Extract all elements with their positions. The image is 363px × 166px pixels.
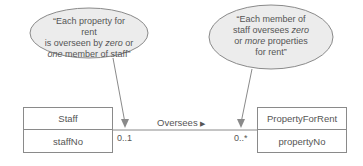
multiplicity-property: 0..* [234,133,248,143]
class-propertyforrent-name: PropertyForRent [258,108,346,130]
class-staff: Staff staffNo [23,107,113,153]
note-left-arrowhead [121,119,129,128]
direction-arrow-icon: ▶ [200,120,205,127]
note-right-text: “Each member of staff oversees zero or m… [226,14,316,58]
note-left-pointer [113,58,125,123]
class-staff-name: Staff [24,108,112,130]
class-propertyforrent-attribute: propertyNo [258,130,346,152]
note-left-text: “Each property for rent is overseen by z… [44,16,134,60]
association-label: Oversees ▶ [157,117,205,128]
note-right-arrowhead [237,119,245,128]
class-staff-attribute: staffNo [24,130,112,152]
multiplicity-staff: 0..1 [117,133,132,143]
class-propertyforrent: PropertyForRent propertyNo [257,107,347,153]
note-right-pointer [241,69,252,123]
